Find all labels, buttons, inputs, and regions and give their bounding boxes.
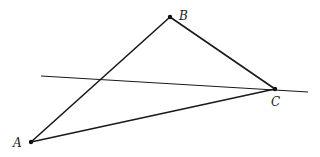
segment-ab [31, 17, 170, 142]
point-b [168, 15, 172, 19]
label-c: C [271, 95, 280, 109]
point-c [273, 87, 277, 91]
label-a: A [12, 136, 22, 150]
segment-ac [31, 89, 275, 142]
point-a [29, 140, 33, 144]
segment-bc [170, 17, 275, 89]
triangle-diagram: A B C [0, 0, 320, 157]
label-b: B [178, 9, 188, 23]
